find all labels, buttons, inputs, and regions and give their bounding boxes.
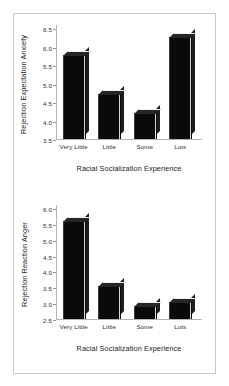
y-tick — [53, 66, 56, 67]
y-tick — [53, 140, 56, 141]
x-tick-label: Some — [136, 323, 153, 330]
chart-panel-anxiety: Rejection Expectation Anxiety 3.54.04.55… — [14, 14, 217, 194]
y-tick — [53, 257, 56, 258]
x-axis-title-top: Racial Socialization Experience — [56, 164, 202, 173]
x-axis-title-bottom: Racial Socialization Experience — [56, 344, 202, 353]
bar-highlight-edge — [155, 113, 156, 139]
bar — [63, 221, 85, 319]
bar-front-face — [98, 94, 121, 139]
y-tick-label: 3.5 — [43, 285, 52, 292]
x-tick-label: Very Little — [60, 323, 88, 330]
bar-top-face — [63, 217, 90, 222]
bar-front-face — [63, 221, 86, 319]
y-tick-label: 5.0 — [43, 81, 52, 88]
x-tick-label: Little — [102, 143, 116, 150]
y-tick-label: 5.0 — [43, 237, 52, 244]
x-tick-label: Very Little — [60, 143, 88, 150]
bar-top-face — [169, 298, 196, 303]
y-tick-label: 4.5 — [43, 100, 52, 107]
y-tick-label: 4.5 — [43, 253, 52, 260]
y-tick — [53, 209, 56, 210]
y-tick — [53, 29, 56, 30]
y-tick-label: 3.0 — [43, 301, 52, 308]
y-axis-title-bottom: Rejection Reaction Anger — [18, 208, 30, 320]
bar-top-face — [169, 33, 196, 38]
y-tick-label: 6.5 — [43, 26, 52, 33]
x-tick-label: Little — [102, 323, 116, 330]
bar-highlight-edge — [84, 55, 85, 139]
bar — [169, 302, 191, 319]
bar-front-face — [134, 113, 157, 139]
plot-area-top: 3.54.04.55.05.56.06.5Very LittleLittleSo… — [56, 28, 198, 140]
bar-highlight-edge — [190, 37, 191, 139]
y-tick-label: 6.0 — [43, 206, 52, 213]
bar-highlight-edge — [84, 221, 85, 319]
bar-highlight-edge — [155, 306, 156, 319]
bar-highlight-edge — [190, 302, 191, 319]
chart-panel-anger: Rejection Reaction Anger 2.53.03.54.04.5… — [14, 194, 217, 374]
y-tick-label: 3.5 — [43, 137, 52, 144]
bar-group-top — [56, 28, 198, 139]
y-tick — [53, 304, 56, 305]
figure-frame: Rejection Expectation Anxiety 3.54.04.55… — [13, 13, 216, 374]
bar-front-face — [63, 55, 86, 139]
bar-front-face — [169, 302, 192, 319]
bar-front-face — [134, 306, 157, 319]
bar-front-face — [98, 286, 121, 319]
y-tick-label: 2.5 — [43, 317, 52, 324]
figure-container: Rejection Expectation Anxiety 3.54.04.55… — [0, 0, 229, 386]
y-tick-label: 4.0 — [43, 269, 52, 276]
plot-area-bottom: 2.53.03.54.04.55.05.56.0Very LittleLittl… — [56, 208, 198, 320]
y-tick — [53, 103, 56, 104]
bar-group-bottom — [56, 208, 198, 319]
y-tick — [53, 272, 56, 273]
y-tick — [53, 225, 56, 226]
bar — [134, 113, 156, 139]
x-tick-label: Lots — [174, 143, 186, 150]
y-tick-label: 4.0 — [43, 118, 52, 125]
y-axis-title-top: Rejection Expectation Anxiety — [18, 28, 30, 140]
y-tick — [53, 320, 56, 321]
y-tick — [53, 85, 56, 86]
y-tick-label: 5.5 — [43, 221, 52, 228]
bar — [169, 37, 191, 139]
y-tick — [53, 241, 56, 242]
x-tick-label: Lots — [174, 323, 186, 330]
bar — [63, 55, 85, 139]
bar-front-face — [169, 37, 192, 139]
bar — [98, 94, 120, 139]
bar-top-face — [63, 51, 90, 56]
y-tick-label: 5.5 — [43, 63, 52, 70]
y-tick — [53, 48, 56, 49]
x-tick-label: Some — [136, 143, 153, 150]
y-tick — [53, 288, 56, 289]
x-axis-line-top — [56, 139, 202, 140]
y-tick — [53, 122, 56, 123]
y-tick-label: 6.0 — [43, 44, 52, 51]
bar — [134, 306, 156, 319]
bar — [98, 286, 120, 319]
bar-highlight-edge — [119, 286, 120, 319]
x-axis-line-bottom — [56, 319, 202, 320]
bar-highlight-edge — [119, 94, 120, 139]
